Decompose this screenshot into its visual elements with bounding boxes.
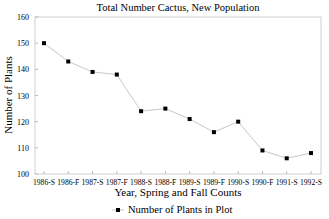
legend: Number of Plants in Plot [112, 204, 232, 215]
data-point-marker-icon [163, 107, 167, 111]
y-tick-label: 160 [17, 13, 29, 22]
x-tick-label: 1987-F [106, 178, 128, 187]
x-tick-label: 1989-F [203, 178, 225, 187]
chart-title: Total Number Cactus, New Population [97, 2, 261, 13]
x-tick-label: 1990-S [227, 178, 249, 187]
data-point-marker-icon [309, 151, 313, 155]
data-point-marker-icon [236, 120, 240, 124]
legend-label: Number of Plants in Plot [128, 204, 232, 215]
x-tick-label: 1988-F [154, 178, 176, 187]
data-point-marker-icon [91, 70, 95, 74]
data-point-marker-icon [212, 130, 216, 134]
x-tick-label: 1986-F [57, 178, 79, 187]
y-tick-label: 140 [17, 65, 29, 74]
data-series [42, 41, 313, 160]
data-point-marker-icon [42, 41, 46, 45]
y-axis-label: Number of Plants [2, 56, 14, 134]
x-tick-label: 1990-F [251, 178, 273, 187]
y-tick-label: 120 [17, 118, 29, 127]
axis-ticks: 1001101201301401501601986-S1986-F1987-S1… [17, 13, 322, 187]
x-tick-label: 1987-S [82, 178, 104, 187]
data-point-marker-icon [260, 148, 264, 152]
x-tick-label: 1992-S [300, 178, 322, 187]
plot-area [35, 17, 321, 174]
data-point-marker-icon [66, 59, 70, 63]
y-tick-label: 100 [17, 170, 29, 179]
x-tick-label: 1989-S [179, 178, 201, 187]
data-point-marker-icon [139, 109, 143, 113]
data-point-marker-icon [188, 117, 192, 121]
x-axis-label: Year, Spring and Fall Counts [114, 186, 241, 198]
x-tick-label: 1991-S [276, 178, 298, 187]
x-tick-label: 1988-S [130, 178, 152, 187]
x-tick-label: 1986-S [33, 178, 55, 187]
chart: Total Number Cactus, New Population Numb… [0, 0, 329, 219]
y-tick-label: 130 [17, 92, 29, 101]
data-point-marker-icon [115, 73, 119, 77]
y-tick-label: 110 [17, 144, 29, 153]
data-point-marker-icon [285, 156, 289, 160]
legend-marker-icon [116, 208, 120, 212]
series-line [44, 43, 311, 158]
y-tick-label: 150 [17, 39, 29, 48]
